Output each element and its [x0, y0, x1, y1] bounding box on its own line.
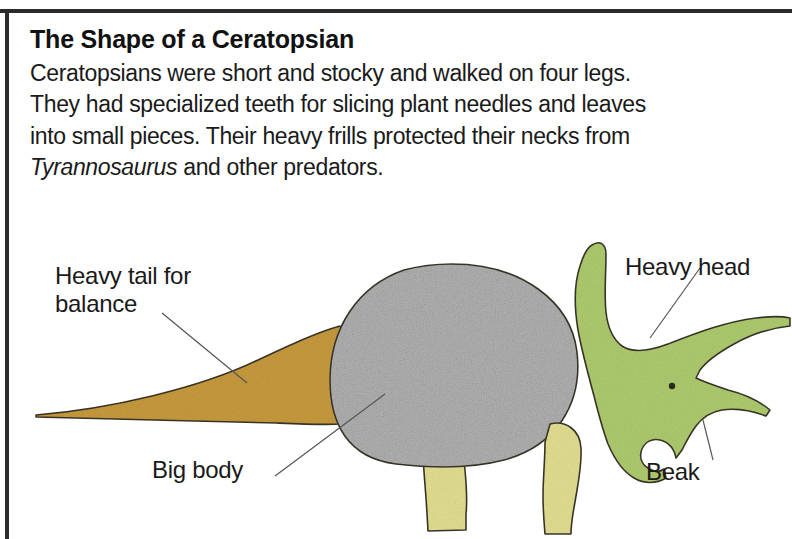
- body-text-before: Ceratopsians were short and stocky and w…: [30, 60, 646, 149]
- label-heavy-tail: Heavy tail for balance: [55, 262, 191, 319]
- page-title: The Shape of a Ceratopsian: [30, 24, 750, 54]
- text-block: The Shape of a Ceratopsian Ceratopsians …: [30, 24, 750, 183]
- body-paragraph: Ceratopsians were short and stocky and w…: [30, 58, 670, 183]
- illustrated-fact-panel: The Shape of a Ceratopsian Ceratopsians …: [0, 0, 792, 539]
- big-body: [330, 264, 578, 467]
- label-heavy-head: Heavy head: [625, 253, 750, 281]
- heavy-tail: [36, 326, 344, 424]
- eye: [669, 383, 675, 389]
- front-leg: [543, 423, 581, 534]
- leader-line-tail: [162, 313, 247, 383]
- genus-name-tyrannosaurus: Tyrannosaurus: [30, 154, 177, 180]
- frame-top-rule: [0, 9, 792, 13]
- label-beak: Beak: [646, 458, 700, 486]
- leader-line-beak: [703, 420, 713, 460]
- label-big-body: Big body: [152, 456, 243, 484]
- body-text-after: and other predators.: [177, 154, 383, 180]
